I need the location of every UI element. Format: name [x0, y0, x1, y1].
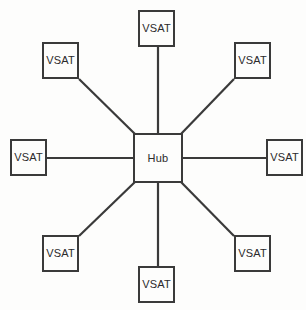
- vsat-s-label: VSAT: [142, 279, 171, 290]
- vsat-sw-label: VSAT: [46, 248, 75, 259]
- vsat-s[interactable]: VSAT: [138, 266, 175, 303]
- link-se: [180, 181, 234, 236]
- vsat-se[interactable]: VSAT: [234, 235, 271, 272]
- hub-node[interactable]: Hub: [133, 133, 183, 183]
- vsat-n[interactable]: VSAT: [138, 10, 175, 47]
- star-topology-diagram: VSATVSATVSATVSATVSATVSATVSATVSAT Hub: [0, 0, 306, 310]
- vsat-w-label: VSAT: [14, 152, 43, 163]
- vsat-ne-label: VSAT: [238, 55, 267, 66]
- link-sw: [79, 181, 136, 236]
- vsat-e-label: VSAT: [270, 152, 299, 163]
- vsat-sw[interactable]: VSAT: [42, 235, 79, 272]
- vsat-w[interactable]: VSAT: [10, 139, 47, 176]
- vsat-nw-label: VSAT: [46, 55, 75, 66]
- vsat-se-label: VSAT: [238, 248, 267, 259]
- vsat-ne[interactable]: VSAT: [234, 42, 271, 79]
- vsat-nw[interactable]: VSAT: [42, 42, 79, 79]
- hub-label: Hub: [148, 153, 169, 164]
- link-nw: [79, 79, 136, 135]
- link-ne: [180, 79, 234, 135]
- vsat-e[interactable]: VSAT: [266, 139, 303, 176]
- vsat-n-label: VSAT: [142, 23, 171, 34]
